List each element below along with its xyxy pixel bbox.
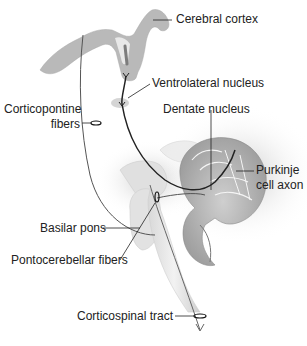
label-ventrolateral-nucleus: Ventrolateral nucleus <box>152 76 264 90</box>
label-dentate-nucleus: Dentate nucleus <box>163 102 250 116</box>
label-pontocerebellar-fibers: Pontocerebellar fibers <box>11 253 128 267</box>
corticopontine-ring-icon <box>91 121 101 125</box>
anatomy-diagram: Cerebral cortex Ventrolateral nucleus Co… <box>0 0 307 346</box>
label-basilar-pons: Basilar pons <box>40 221 106 235</box>
label-corticopontine-line2: fibers <box>40 117 80 131</box>
label-cerebral-cortex: Cerebral cortex <box>176 12 258 26</box>
corticospinal-ring-icon <box>194 314 206 318</box>
label-purkinje-line1: Purkinje <box>256 163 299 177</box>
label-corticopontine-line1: Corticopontine <box>4 102 82 116</box>
label-purkinje-line2: cell axon <box>256 178 303 192</box>
label-corticospinal-tract: Corticospinal tract <box>77 309 173 323</box>
cerebral-cortex-shape <box>40 9 169 80</box>
